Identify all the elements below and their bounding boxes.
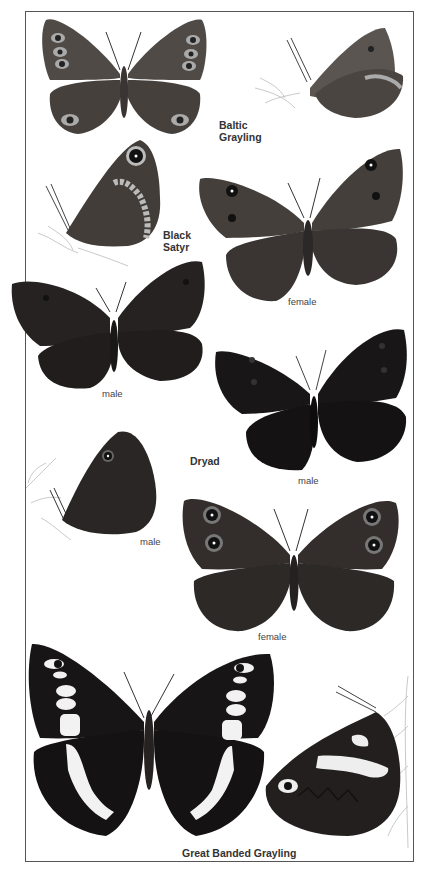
label-dryad: Dryad: [190, 455, 220, 467]
dryad-male-underside: [26, 428, 161, 543]
great-banded-grayling-underside: [258, 676, 418, 848]
label-great-banded-grayling: Great Banded Grayling: [182, 847, 296, 859]
dryad-female-upperside: [182, 481, 407, 641]
dryad-male-upperside: [212, 322, 408, 472]
black-satyr-female-upperside: [196, 143, 406, 303]
label-baltic-grayling: Baltic Grayling: [219, 119, 262, 143]
caption-dryad-underside-male: male: [140, 536, 161, 547]
black-satyr-underside: [38, 138, 168, 268]
great-banded-grayling-upperside: [26, 640, 284, 840]
caption-black-satyr-female: female: [288, 296, 317, 307]
caption-black-satyr-male: male: [102, 388, 123, 399]
baltic-grayling-underside: [255, 18, 415, 118]
label-black-satyr: Black Satyr: [163, 229, 191, 253]
black-satyr-male-upperside: [10, 256, 206, 391]
baltic-grayling-upperside: [38, 14, 213, 136]
